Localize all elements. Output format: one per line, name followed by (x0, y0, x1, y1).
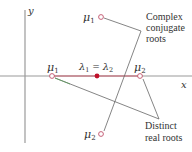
svg-text:conjugate: conjugate (146, 22, 185, 33)
svg-text:roots: roots (146, 33, 166, 44)
root-locus-diagram: y x μ1 μ2 μ1 μ2 λ1 = λ2 Complex conjugat… (0, 0, 192, 152)
real-mu1-label: μ1 (47, 61, 59, 75)
repeated-lambda-label: λ1 = λ2 (78, 61, 113, 74)
complex-mu1-label: μ1 (83, 11, 95, 25)
complex-mu1-point (99, 15, 104, 20)
svg-text:Distinct: Distinct (145, 120, 177, 131)
real-leader-line-green (55, 78, 70, 84)
real-roots-annotation: Distinct real roots (145, 120, 183, 143)
y-axis-label: y (27, 5, 34, 16)
complex-mu2-point (99, 132, 104, 137)
repeated-lambda-point (95, 74, 100, 79)
complex-roots-annotation: Complex conjugate roots (146, 11, 185, 44)
complex-mu2-label: μ2 (84, 128, 96, 142)
svg-text:real roots: real roots (145, 132, 183, 143)
real-leader-line (55, 78, 159, 119)
real-mu2-label: μ2 (134, 61, 146, 75)
complex-leader-line (104, 18, 141, 131)
svg-text:Complex: Complex (146, 11, 183, 22)
x-axis-label: x (181, 79, 187, 90)
